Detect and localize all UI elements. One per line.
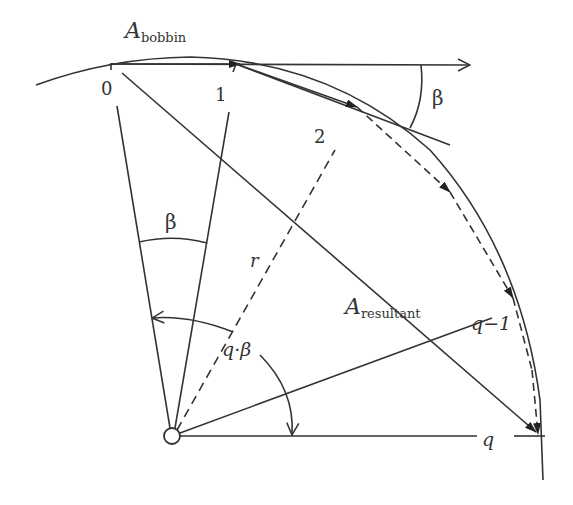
beta-arc-top — [410, 65, 422, 128]
point-label-q-minus-1: q−1 — [471, 314, 511, 333]
point-label-2: 2 — [314, 128, 325, 146]
q-beta-label: q·β — [222, 340, 251, 359]
point-label-0: 0 — [101, 80, 112, 98]
beta-label-sector: β — [165, 212, 177, 232]
bobbin-arc — [36, 57, 543, 480]
beta-arc-sector — [139, 238, 207, 243]
tick-1 — [233, 64, 236, 72]
radius-2 — [177, 150, 335, 430]
center-pivot — [164, 428, 180, 444]
point-label-1: 1 — [215, 86, 226, 104]
radius-q-minus-1 — [180, 318, 492, 433]
q-beta-arc-lower — [260, 355, 292, 435]
point-label-q: q — [482, 430, 494, 449]
a-bobbin-label: Abobbin — [125, 20, 186, 44]
a-resultant-label: Aresultant — [345, 296, 421, 320]
radius-0 — [117, 106, 170, 428]
radius-label: r — [250, 252, 259, 270]
beta-label-top: β — [432, 88, 444, 108]
